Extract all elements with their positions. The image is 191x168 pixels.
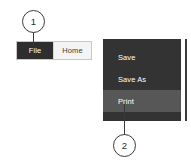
file-menu-list: Save Save As Print <box>103 39 177 121</box>
menu-item-print-label: Print <box>118 97 134 106</box>
callout-marker-1-number: 1 <box>31 17 36 27</box>
tab-file[interactable]: File <box>17 42 53 59</box>
callout-marker-1: 1 <box>22 10 45 33</box>
menu-item-save[interactable]: Save <box>103 46 177 68</box>
menu-item-save-as[interactable]: Save As <box>103 68 177 90</box>
callout-leader-line-2 <box>124 104 125 135</box>
menu-item-save-label: Save <box>118 53 136 62</box>
menu-item-save-as-label: Save As <box>118 75 146 84</box>
tab-home-label: Home <box>62 46 82 55</box>
callout-marker-2-number: 2 <box>122 141 127 151</box>
panel-right-edge-line <box>185 39 187 121</box>
tab-file-label: File <box>29 46 42 55</box>
callout-marker-2: 2 <box>113 134 136 157</box>
tab-home[interactable]: Home <box>53 42 91 59</box>
menu-item-print[interactable]: Print <box>103 90 187 112</box>
callout-leader-line-1 <box>33 32 34 46</box>
annotated-ui-figure: 1 File Home Save Save As Print 2 <box>0 0 191 168</box>
ribbon-tab-bar: File Home <box>16 41 92 60</box>
file-menu-panel: Save Save As Print <box>103 39 187 121</box>
